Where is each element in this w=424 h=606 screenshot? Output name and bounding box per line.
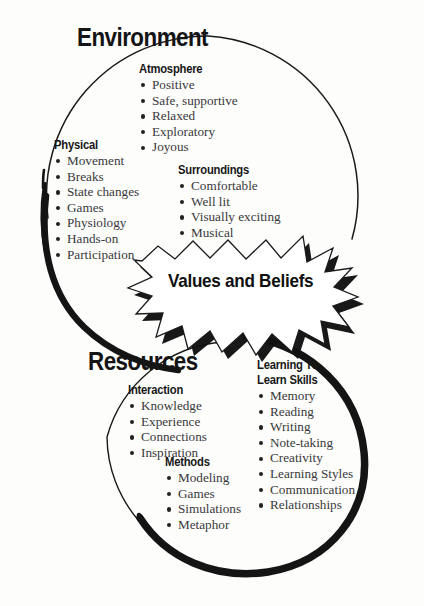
group-heading-interaction: Interaction: [128, 383, 199, 397]
list-item: Games: [54, 200, 139, 216]
list-item: Well lit: [178, 194, 281, 210]
list-item: Reading: [257, 404, 355, 420]
group-list-learn-skills: MemoryReadingWritingNote-takingCreativit…: [257, 388, 355, 513]
list-item: Positive: [139, 77, 238, 93]
group-list-interaction: KnowledgeExperienceConnectionsInspiratio…: [128, 398, 207, 460]
group-methods: Methods ModelingGamesSimulationsMetaphor: [165, 455, 241, 532]
list-item: Writing: [257, 419, 355, 435]
list-item: Experience: [128, 414, 207, 430]
list-item: Knowledge: [128, 398, 207, 414]
list-item: Metaphor: [165, 517, 241, 533]
group-surroundings: Surroundings ComfortableWell litVisually…: [178, 163, 281, 240]
list-item: State changes: [54, 184, 139, 200]
list-item: Note-taking: [257, 435, 355, 451]
group-atmosphere: Atmosphere PositiveSafe, supportiveRelax…: [139, 62, 238, 155]
group-heading-learn-skills-line2: Learn Skills: [257, 373, 345, 387]
group-learning-to-learn-skills: Learning To Learn Skills MemoryReadingWr…: [257, 358, 355, 513]
group-heading-atmosphere: Atmosphere: [139, 62, 228, 76]
list-item: Safe, supportive: [139, 93, 238, 109]
group-physical: Physical MovementBreaksState changesGame…: [54, 138, 139, 262]
group-heading-methods: Methods: [165, 455, 233, 469]
list-item: Connections: [128, 429, 207, 445]
page-title-resources: Resources: [88, 348, 198, 374]
group-heading-learn-skills-line1: Learning To: [257, 358, 345, 372]
group-heading-surroundings: Surroundings: [178, 163, 270, 177]
list-item: Joyous: [139, 139, 238, 155]
group-list-methods: ModelingGamesSimulationsMetaphor: [165, 470, 241, 532]
group-interaction: Interaction KnowledgeExperienceConnectio…: [128, 383, 207, 460]
list-item: Communication: [257, 482, 355, 498]
list-item: Creativity: [257, 450, 355, 466]
page-title-environment: Environment: [77, 24, 208, 50]
list-item: Relationships: [257, 497, 355, 513]
list-item: Participation: [54, 247, 139, 263]
list-item: Modeling: [165, 470, 241, 486]
list-item: Learning Styles: [257, 466, 355, 482]
center-label-values-and-beliefs: Values and Beliefs: [168, 270, 313, 292]
list-item: Games: [165, 486, 241, 502]
list-item: Relaxed: [139, 108, 238, 124]
list-item: Musical: [178, 225, 281, 241]
list-item: Physiology: [54, 215, 139, 231]
list-item: Simulations: [165, 501, 241, 517]
list-item: Memory: [257, 388, 355, 404]
group-heading-physical: Physical: [54, 138, 131, 152]
group-list-surroundings: ComfortableWell litVisually excitingMusi…: [178, 178, 281, 240]
starburst-shape: [128, 236, 364, 362]
group-list-physical: MovementBreaksState changesGamesPhysiolo…: [54, 153, 139, 262]
list-item: Comfortable: [178, 178, 281, 194]
group-list-atmosphere: PositiveSafe, supportiveRelaxedExplorato…: [139, 77, 238, 155]
list-item: Hands-on: [54, 231, 139, 247]
list-item: Breaks: [54, 169, 139, 185]
list-item: Exploratory: [139, 124, 238, 140]
diagram-canvas: Environment Resources Values and Beliefs…: [0, 0, 424, 606]
list-item: Movement: [54, 153, 139, 169]
list-item: Visually exciting: [178, 209, 281, 225]
